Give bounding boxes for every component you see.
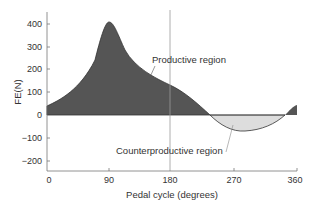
chart: 400 300 200 100 0 −100 −200 0 90 180 270… xyxy=(0,0,315,208)
counterproductive-region-label: Counterproductive region xyxy=(116,145,223,156)
x-tick-180: 180 xyxy=(162,175,177,185)
x-tick-270: 270 xyxy=(226,175,241,185)
y-tick-neg100: −100 xyxy=(22,133,42,143)
y-tick-neg200: −200 xyxy=(22,156,42,166)
y-axis-label: FE(N) xyxy=(12,79,23,104)
x-tick-90: 90 xyxy=(104,175,114,185)
counterproductive-region-area xyxy=(210,115,285,131)
x-tick-0: 0 xyxy=(46,175,51,185)
x-tick-360: 360 xyxy=(287,175,302,185)
x-axis-label: Pedal cycle (degrees) xyxy=(126,189,218,200)
productive-region-label: Productive region xyxy=(152,54,226,65)
y-tick-400: 400 xyxy=(27,19,42,29)
productive-region-area xyxy=(47,22,210,115)
y-tick-200: 200 xyxy=(27,64,42,74)
y-tick-100: 100 xyxy=(27,87,42,97)
y-tick-300: 300 xyxy=(27,42,42,52)
y-tick-0: 0 xyxy=(37,110,42,120)
productive-region-area-right xyxy=(285,105,297,115)
